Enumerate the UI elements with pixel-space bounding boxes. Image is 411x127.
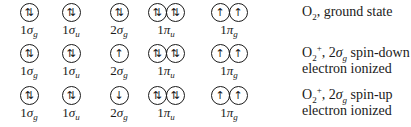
orbital-label-subscript: g [233,70,238,80]
state-row: ⇅1σg⇅1σu↓2σg⇅⇅1πu↑↑1πgO2+, 2σg spin-upel… [0,86,411,127]
electron-spin-icon: ↑ [110,44,129,63]
state-row: ⇅1σg⇅1σu⇅2σg⇅⇅1πu↑↑1πgO2, ground state [0,3,411,45]
description-text: spin-down [347,45,410,60]
electron-spin-icon: ⇅ [166,86,185,105]
orbital-label-subscript: u [75,112,80,122]
description-text-line2: electron ionized [302,61,392,76]
electron-spin-icon: ⇅ [62,86,81,105]
electron-spin-icon: ⇅ [20,44,39,63]
orbital-symbol: σ [336,87,343,102]
orbital-label-subscript: g [233,112,238,122]
orbital-boxes: ↑↑ [199,86,259,106]
electron-spin-icon: ⇅ [110,3,129,22]
electron-spin-icon: ⇅ [166,3,185,22]
electron-spin-icon: ⇅ [148,44,167,63]
orbital-label-subscript: u [170,29,175,39]
orbital-label-subscript: u [170,112,175,122]
species-symbol: O [302,4,312,19]
description-text-line2: electron ionized [302,103,392,118]
orbital-label: 1πu [136,23,196,37]
electron-spin-icon: ↑ [229,86,248,105]
electron-spin-icon: ⇅ [62,44,81,63]
description-text: , ground state [317,4,393,19]
orbital-label-subscript: g [33,112,38,122]
species-symbol: O [302,45,312,60]
orbital-boxes: ⇅⇅ [136,44,196,64]
orbital-label-subscript: u [75,70,80,80]
state-description: O2, ground state [302,4,411,20]
electron-spin-icon: ⇅ [20,86,39,105]
orbital-label: 1πu [136,64,196,78]
species-symbol: O [302,87,312,102]
orbital-label-subscript: g [233,29,238,39]
description-text: , 2 [322,87,336,102]
orbital: ↑↑1πg [199,3,259,37]
orbital-label-subscript: g [123,112,128,122]
orbital-label-subscript: u [75,29,80,39]
electron-spin-icon: ↑ [229,44,248,63]
electron-spin-icon: ⇅ [148,86,167,105]
electron-spin-icon: ↓ [110,86,129,105]
orbital-label-subscript: u [170,70,175,80]
orbital-label: 1πg [199,23,259,37]
orbital-label: 1πg [199,64,259,78]
orbital-boxes: ↑↑ [199,3,259,23]
orbital-label-subscript: g [33,29,38,39]
orbital: ↑↑1πg [199,86,259,120]
electron-spin-icon: ⇅ [20,3,39,22]
description-text: spin-up [347,87,393,102]
orbital-label: 1πu [136,106,196,120]
orbital: ⇅⇅1πu [136,86,196,120]
electron-spin-icon: ⇅ [166,44,185,63]
orbital-label-subscript: g [123,29,128,39]
electron-spin-icon: ↑ [229,3,248,22]
electron-spin-icon: ↑ [211,86,230,105]
orbital-boxes: ↑↑ [199,44,259,64]
description-text: , 2 [322,45,336,60]
orbital-symbol: σ [336,45,343,60]
orbital-label-subscript: g [123,70,128,80]
orbital-boxes: ⇅⇅ [136,3,196,23]
orbital: ⇅⇅1πu [136,44,196,78]
electron-spin-icon: ↑ [211,44,230,63]
electron-spin-icon: ↑ [211,3,230,22]
orbital-label-subscript: g [33,70,38,80]
state-row: ⇅1σg⇅1σu↑2σg⇅⇅1πu↑↑1πgO2+, 2σg spin-down… [0,44,411,86]
electron-spin-icon: ⇅ [148,3,167,22]
state-description: O2+, 2σg spin-downelectron ionized [302,45,411,77]
orbital: ⇅⇅1πu [136,3,196,37]
electron-spin-icon: ⇅ [62,3,81,22]
orbital: ↑↑1πg [199,44,259,78]
orbital-label: 1πg [199,106,259,120]
state-description: O2+, 2σg spin-upelectron ionized [302,87,411,119]
orbital-boxes: ⇅⇅ [136,86,196,106]
